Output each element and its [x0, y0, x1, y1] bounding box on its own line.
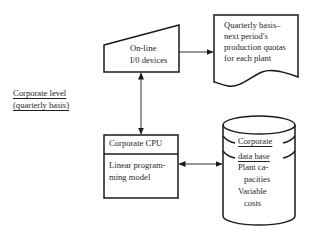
io-devices-line1: On-line [130, 43, 156, 54]
database-line4: costs [244, 198, 261, 209]
cpu-line1: Linear program- [109, 160, 166, 171]
database-title-line1: Corporate [238, 136, 272, 147]
database-top-ellipse [223, 116, 295, 134]
cpu-title: Corporate CPU [109, 138, 162, 149]
side-label-line1: Corporate level [13, 88, 66, 99]
database-line1: Plant ca- [238, 162, 268, 173]
database-line3: Variable [238, 186, 267, 197]
database-band-2-left [223, 151, 235, 158]
database-band-1-right [283, 136, 295, 143]
report-line2: next period's [224, 31, 268, 42]
database-title-line2: data base [238, 151, 270, 162]
database-band-1-left [223, 136, 235, 143]
cpu-line2: ming model [109, 172, 150, 183]
report-line1: Quarterly basis– [224, 20, 281, 31]
report-line4: for each plant [224, 53, 271, 64]
report-line3: production quotas [224, 42, 286, 53]
io-devices-line2: I/0 devices [130, 55, 167, 66]
database-band-2-right [283, 151, 295, 158]
database-line2: pacities [244, 174, 270, 185]
side-label-line2: (quarterly basis) [13, 100, 69, 111]
flowchart-canvas [0, 0, 316, 237]
